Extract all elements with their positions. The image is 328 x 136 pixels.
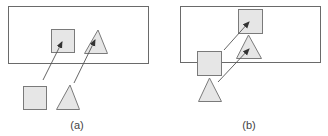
source-triangle bbox=[57, 85, 80, 110]
panel-label-b: (b) bbox=[242, 119, 255, 131]
source-square bbox=[198, 52, 222, 76]
target-triangle bbox=[237, 35, 262, 59]
source-square bbox=[24, 87, 47, 110]
panel-b: (b) bbox=[181, 7, 321, 132]
target-triangle bbox=[85, 30, 108, 54]
arrow-triangle-move bbox=[74, 40, 95, 83]
diagram-canvas: (a) (b) bbox=[0, 0, 328, 136]
target-square bbox=[52, 30, 75, 53]
arrow-triangle-move bbox=[218, 49, 249, 82]
container-rectangle bbox=[9, 7, 149, 64]
panel-label-a: (a) bbox=[70, 119, 83, 131]
panel-a: (a) bbox=[9, 7, 149, 132]
